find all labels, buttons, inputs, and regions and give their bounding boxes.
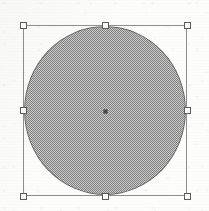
resize-handle-top-right[interactable] <box>184 22 191 29</box>
editor-canvas[interactable] <box>0 0 209 211</box>
resize-handle-bottom-right[interactable] <box>184 193 191 200</box>
resize-handle-middle-right[interactable] <box>184 107 191 114</box>
resize-handle-top-left[interactable] <box>20 22 27 29</box>
center-anchor-point[interactable] <box>103 109 108 114</box>
resize-handle-bottom-left[interactable] <box>20 193 27 200</box>
resize-handle-top-center[interactable] <box>102 22 109 29</box>
resize-handle-bottom-center[interactable] <box>102 193 109 200</box>
resize-handle-middle-left[interactable] <box>20 107 27 114</box>
